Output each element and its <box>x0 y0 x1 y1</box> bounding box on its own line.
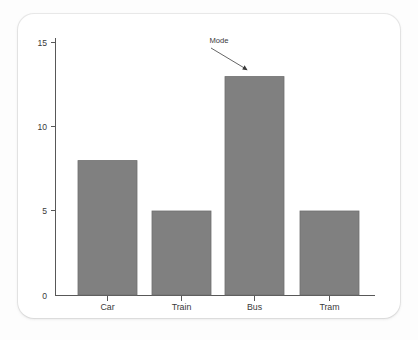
bar-bus[interactable] <box>225 77 284 295</box>
annotation-arrow-line <box>211 48 246 69</box>
bar-train[interactable] <box>152 211 211 295</box>
bar-car[interactable] <box>78 161 137 295</box>
bar-chart: 15 10 5 0 Car Train Bus Tram Mode <box>0 0 418 340</box>
y-tick-label-5: 5 <box>42 206 47 216</box>
y-tick-label-0: 0 <box>42 291 47 301</box>
y-tick-label-15: 15 <box>37 38 47 48</box>
x-tick-label-bus: Bus <box>247 302 263 312</box>
x-tick-label-car: Car <box>100 302 114 312</box>
x-tick-label-train: Train <box>172 302 192 312</box>
y-tick-label-10: 10 <box>37 122 47 132</box>
screenshot-root: 15 10 5 0 Car Train Bus Tram Mode <box>0 0 418 340</box>
x-tick-label-tram: Tram <box>319 302 339 312</box>
bar-tram[interactable] <box>300 211 359 295</box>
annotation-label-mode: Mode <box>210 36 229 45</box>
